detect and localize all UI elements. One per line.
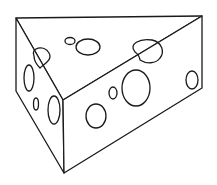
cheese-illustration: cheese wedge [0, 0, 217, 185]
cheese-wedge-drawing [0, 0, 217, 185]
